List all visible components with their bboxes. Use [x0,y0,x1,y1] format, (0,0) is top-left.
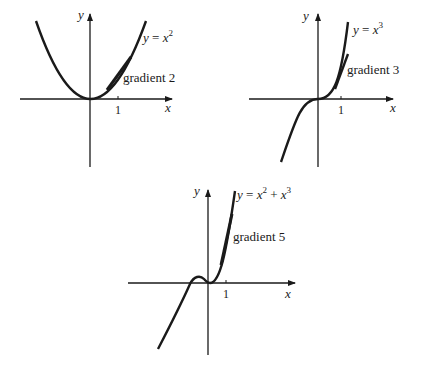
gradient-annotation: gradient 2 [123,70,175,85]
x-tick-label: 1 [338,103,344,117]
graph-cubic: y x 1 y = x3 gradient 3 [249,8,399,167]
equation-label: y = x3 [351,20,383,37]
gradient-annotation: gradient 3 [347,62,399,77]
curve-x-cubed [281,22,348,162]
equation-label: y = x2 [141,28,173,45]
y-axis-label: y [301,8,309,23]
figure: y x 1 y = x2 gradient 2 y x 1 y = x3 gra… [0,0,421,369]
x-axis-label: x [164,100,171,115]
y-axis-label: y [192,183,200,198]
tangent-line [221,214,232,265]
graph-x2-plus-x3: y x 1 y = x2 + x3 gradient 5 [128,183,295,355]
graph-parabola: y x 1 y = x2 gradient 2 [20,7,175,167]
equation-label: y = x2 + x3 [235,185,292,202]
x-axis-label: x [284,286,291,301]
x-tick-label: 1 [223,287,229,301]
curve-x2-plus-x3 [158,191,235,349]
y-axis-label: y [76,7,84,22]
gradient-annotation: gradient 5 [233,229,285,244]
x-axis-label: x [389,100,396,115]
x-tick-label: 1 [115,103,121,117]
